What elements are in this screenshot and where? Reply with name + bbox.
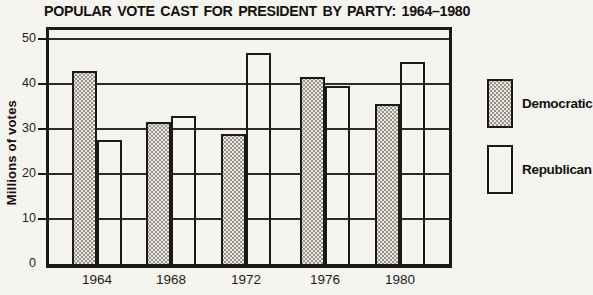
chart-title: POPULAR VOTE CAST FOR PRESIDENT BY PARTY… <box>44 3 448 19</box>
y-tick-mark-20 <box>38 173 46 175</box>
bar-republican-1968 <box>171 116 196 265</box>
y-tick-mark-50 <box>38 38 46 40</box>
y-tick-label-50: 50 <box>8 31 36 45</box>
x-tick-label-1968: 1968 <box>143 272 199 287</box>
y-tick-label-10: 10 <box>8 211 36 225</box>
legend-label-republican: Republican <box>522 162 592 177</box>
bar-republican-1976 <box>325 86 350 264</box>
bar-republican-1964 <box>97 140 122 264</box>
democratic-swatch <box>487 79 513 128</box>
y-tick-mark-30 <box>38 128 46 130</box>
bar-democratic-1980 <box>375 104 400 264</box>
y-tick-mark-10 <box>38 218 46 220</box>
y-axis-title: Millions of votes <box>4 100 19 205</box>
plot-area <box>46 27 452 268</box>
legend-item-democratic: Democratic <box>487 79 593 128</box>
y-tick-label-0: 0 <box>8 256 36 270</box>
legend-label-democratic: Democratic <box>522 96 593 111</box>
legend-item-republican: Republican <box>487 145 593 194</box>
x-tick-label-1976: 1976 <box>297 272 353 287</box>
bars <box>49 30 449 264</box>
x-tick-label-1964: 1964 <box>69 272 125 287</box>
y-tick-label-40: 40 <box>8 76 36 90</box>
republican-swatch <box>487 145 513 194</box>
bar-republican-1972 <box>246 53 271 265</box>
bar-republican-1980 <box>400 62 425 265</box>
y-tick-label-20: 20 <box>8 166 36 180</box>
bar-democratic-1972 <box>221 134 246 265</box>
legend: Democratic Republican <box>487 79 593 194</box>
bar-democratic-1968 <box>146 122 171 264</box>
bar-democratic-1976 <box>300 77 325 264</box>
x-tick-label-1972: 1972 <box>218 272 274 287</box>
bar-democratic-1964 <box>72 71 97 265</box>
y-tick-label-30: 30 <box>8 121 36 135</box>
gridline-50 <box>49 38 449 40</box>
x-tick-label-1980: 1980 <box>372 272 428 287</box>
y-tick-mark-40 <box>38 83 46 85</box>
